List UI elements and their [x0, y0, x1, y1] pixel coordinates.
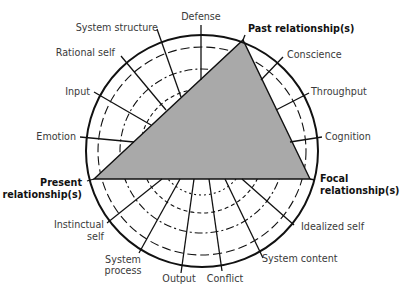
label-system-process-line2: process [105, 265, 142, 276]
label-past-relationships: Past relationship(s) [248, 23, 354, 34]
label-cognition: Cognition [325, 131, 371, 142]
spoke-emotion [80, 137, 134, 142]
label-input: Input [65, 86, 90, 97]
label-idealized-self: Idealized self [301, 221, 365, 232]
label-system-content: System content [262, 253, 338, 264]
label-emotion: Emotion [36, 131, 76, 142]
label-instinctual-line1: Instinctual [54, 219, 104, 230]
label-defense: Defense [181, 11, 221, 22]
spoke-throughput [276, 93, 309, 110]
spoke-rational-self [121, 56, 166, 110]
label-focal-line2: relationship(s) [320, 185, 399, 196]
label-conflict: Conflict [207, 273, 244, 284]
spoke-idealized-self [242, 179, 294, 225]
label-conscience: Conscience [287, 49, 342, 60]
label-rational-self: Rational self [56, 47, 116, 58]
label-system-process-line1: System [105, 254, 141, 265]
spoke-output [181, 179, 194, 273]
label-throughput: Throughput [310, 86, 367, 97]
label-system-structure: System structure [76, 22, 158, 33]
spoke-system-process [139, 179, 180, 253]
label-focal-line1: Focal [320, 173, 348, 184]
spoke-instinctual-self [107, 179, 162, 223]
label-present-line2: relationship(s) [3, 189, 82, 200]
spoke-past [243, 35, 245, 40]
spoke-conscience [261, 57, 283, 80]
label-instinctual-line2: self [87, 231, 105, 242]
label-output: Output [162, 273, 196, 284]
label-present-line1: Present [40, 177, 82, 188]
relationship-wheel-diagram: Defense System structure Rational self I… [0, 0, 401, 294]
